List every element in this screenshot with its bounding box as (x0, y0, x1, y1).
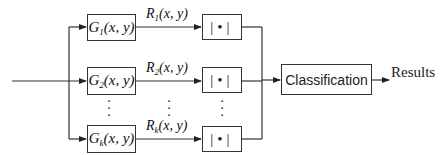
classification-block: Classification (281, 64, 372, 95)
ellipsis-filters: ··· (104, 98, 114, 119)
results-label: Results (391, 64, 435, 81)
abs-block-2: |•| (202, 67, 242, 93)
filter-block-1: G1(x, y) (87, 14, 136, 41)
abs-block-1: |•| (202, 14, 242, 40)
filter-label-k: Gk(x, y) (89, 130, 135, 148)
abs-symbol-k: |•| (210, 131, 233, 148)
response-label-1: R1(x, y) (146, 6, 188, 23)
filter-block-k: Gk(x, y) (87, 125, 136, 153)
filter-label-1: G1(x, y) (88, 19, 134, 37)
diagram-canvas: G1(x, y) G2(x, y) Gk(x, y) R1(x, y) R2(x… (0, 0, 445, 155)
ellipsis-responses: ··· (164, 98, 174, 119)
ellipsis-abs: ··· (217, 98, 227, 119)
abs-symbol-1: |•| (210, 19, 233, 36)
filter-label-2: G2(x, y) (88, 72, 134, 90)
filter-block-2: G2(x, y) (87, 67, 136, 95)
response-label-2: R2(x, y) (146, 60, 188, 77)
abs-block-k: |•| (202, 126, 242, 152)
classification-label: Classification (285, 72, 367, 88)
abs-symbol-2: |•| (210, 72, 233, 89)
